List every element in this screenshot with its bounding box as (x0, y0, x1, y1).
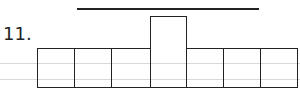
row-box-7 (260, 48, 298, 88)
row-box-1 (37, 48, 75, 88)
row-box-6 (223, 48, 261, 88)
row-box-3 (111, 48, 151, 88)
answer-line (77, 8, 259, 10)
row-box-2 (74, 48, 112, 88)
problem-number: 11. (3, 25, 32, 43)
row-box-5 (186, 48, 224, 88)
tall-center-box (150, 16, 187, 88)
